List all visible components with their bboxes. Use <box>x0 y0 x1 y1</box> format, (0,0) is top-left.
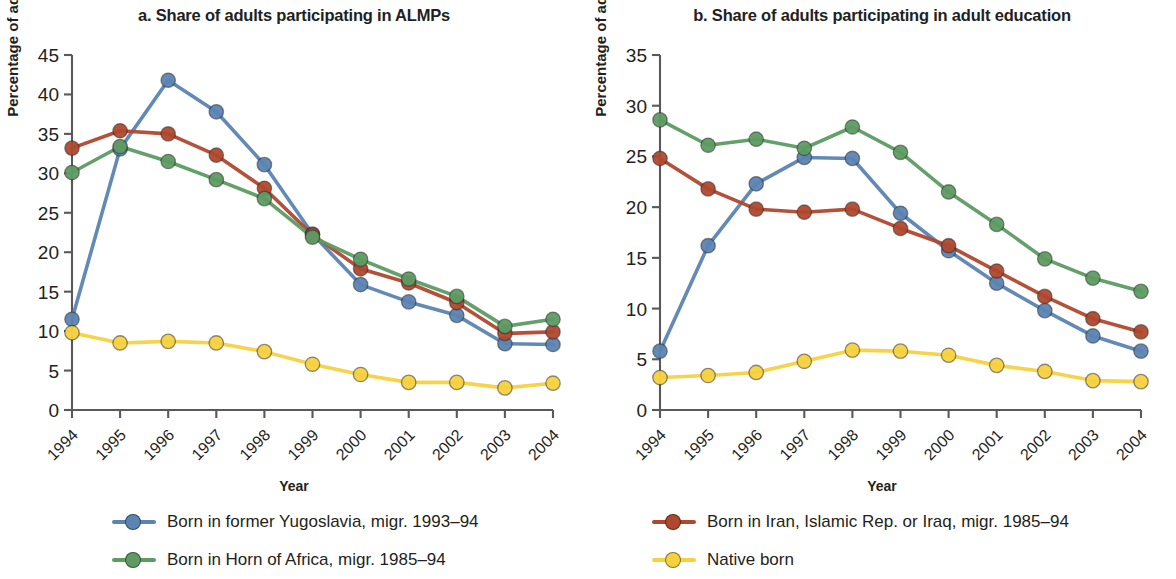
data-point-marker <box>305 230 319 244</box>
legend-item-iran-iraq: Born in Iran, Islamic Rep. or Iraq, migr… <box>652 503 1176 541</box>
x-axis-tick-label: 1998 <box>236 426 273 463</box>
data-point-marker <box>257 191 271 205</box>
legend-item-yugoslavia: Born in former Yugoslavia, migr. 1993–94 <box>112 503 652 541</box>
data-point-marker <box>65 165 79 179</box>
data-point-marker <box>353 367 367 381</box>
x-axis-tick-label: 2000 <box>333 426 370 463</box>
data-point-marker <box>450 289 464 303</box>
x-axis-tick-label: 2004 <box>1113 426 1150 463</box>
data-point-marker <box>797 354 811 368</box>
x-axis-tick-label: 1999 <box>872 426 909 463</box>
data-point-marker <box>546 312 560 326</box>
data-point-marker <box>653 151 667 165</box>
data-point-marker <box>990 358 1004 372</box>
data-point-marker <box>845 151 859 165</box>
legend-label-iran-iraq: Born in Iran, Islamic Rep. or Iraq, migr… <box>707 513 1069 532</box>
data-point-marker <box>402 272 416 286</box>
y-axis-tick-label: 15 <box>626 248 647 269</box>
legend-marker-icon-iran-iraq <box>652 511 696 533</box>
y-axis-tick-label: 10 <box>38 321 59 342</box>
panel-b-plot: 0510152025303519941995199619971998199920… <box>588 0 1176 500</box>
series-line <box>72 80 553 344</box>
y-axis-tick-label: 45 <box>38 45 59 66</box>
data-point-marker <box>209 336 223 350</box>
data-point-marker <box>941 185 955 199</box>
x-axis-tick-label: 2002 <box>429 426 466 463</box>
panel-b: b. Share of adults participating in adul… <box>588 0 1176 500</box>
y-axis-tick-label: 35 <box>38 124 59 145</box>
data-point-marker <box>701 238 715 252</box>
y-axis-tick-label: 30 <box>38 163 59 184</box>
y-axis-tick-label: 5 <box>48 361 59 382</box>
data-point-marker <box>1086 329 1100 343</box>
data-point-marker <box>257 157 271 171</box>
data-point-marker <box>941 238 955 252</box>
data-point-marker <box>353 277 367 291</box>
legend-marker-icon-yugoslavia <box>112 511 156 533</box>
data-point-marker <box>546 376 560 390</box>
data-point-marker <box>402 295 416 309</box>
y-axis-tick-label: 5 <box>636 349 647 370</box>
data-point-marker <box>65 141 79 155</box>
y-axis-tick-label: 10 <box>626 299 647 320</box>
data-point-marker <box>845 343 859 357</box>
x-axis-tick-label: 2001 <box>969 426 1006 463</box>
y-axis-tick-label: 25 <box>38 203 59 224</box>
series-line <box>660 158 1141 331</box>
x-axis-tick-label: 1996 <box>140 426 177 463</box>
data-point-marker <box>1038 364 1052 378</box>
y-axis-tick-label: 25 <box>626 146 647 167</box>
data-point-marker <box>209 148 223 162</box>
y-axis-tick-label: 35 <box>626 45 647 66</box>
chart-panels: a. Share of adults participating in ALMP… <box>0 0 1176 500</box>
data-point-marker <box>1134 374 1148 388</box>
legend-label-native-born: Native born <box>707 551 794 570</box>
x-axis-tick-label: 2003 <box>1065 426 1102 463</box>
data-point-marker <box>845 120 859 134</box>
data-point-marker <box>113 139 127 153</box>
x-axis-tick-label: 1998 <box>824 426 861 463</box>
data-point-marker <box>353 252 367 266</box>
data-point-marker <box>893 145 907 159</box>
x-axis-tick-label: 2002 <box>1017 426 1054 463</box>
y-axis-tick-label: 30 <box>626 96 647 117</box>
panel-b-x-axis-label: Year <box>588 478 1176 494</box>
data-point-marker <box>1038 303 1052 317</box>
x-axis-tick-label: 1997 <box>188 426 225 463</box>
data-point-marker <box>653 344 667 358</box>
panel-a-plot: 0510152025303540451994199519961997199819… <box>0 0 588 500</box>
x-axis-tick-label: 1995 <box>92 426 129 463</box>
x-axis-tick-label: 2000 <box>921 426 958 463</box>
data-point-marker <box>209 105 223 119</box>
data-point-marker <box>402 375 416 389</box>
legend-label-horn-africa: Born in Horn of Africa, migr. 1985–94 <box>167 551 446 570</box>
legend-label-yugoslavia: Born in former Yugoslavia, migr. 1993–94 <box>167 513 479 532</box>
data-point-marker <box>498 319 512 333</box>
x-axis-tick-label: 1997 <box>776 426 813 463</box>
data-point-marker <box>1134 344 1148 358</box>
x-axis-tick-label: 2003 <box>477 426 514 463</box>
figure-two-panel-line-charts: a. Share of adults participating in ALMP… <box>0 0 1176 579</box>
data-point-marker <box>797 141 811 155</box>
data-point-marker <box>749 132 763 146</box>
data-point-marker <box>1086 312 1100 326</box>
data-point-marker <box>65 325 79 339</box>
data-point-marker <box>749 177 763 191</box>
legend-item-native-born: Native born <box>652 541 1176 579</box>
data-point-marker <box>749 202 763 216</box>
data-point-marker <box>161 154 175 168</box>
y-axis-tick-label: 0 <box>636 400 647 421</box>
data-point-marker <box>1134 284 1148 298</box>
y-axis-tick-label: 15 <box>38 282 59 303</box>
data-point-marker <box>701 138 715 152</box>
x-axis-tick-label: 1994 <box>632 426 669 463</box>
data-point-marker <box>209 172 223 186</box>
data-point-marker <box>1134 325 1148 339</box>
data-point-marker <box>1086 271 1100 285</box>
data-point-marker <box>893 344 907 358</box>
x-axis-tick-label: 2001 <box>381 426 418 463</box>
x-axis-tick-label: 1996 <box>728 426 765 463</box>
panel-a-x-axis-label: Year <box>0 478 588 494</box>
x-axis-tick-label: 1995 <box>680 426 717 463</box>
data-point-marker <box>797 205 811 219</box>
